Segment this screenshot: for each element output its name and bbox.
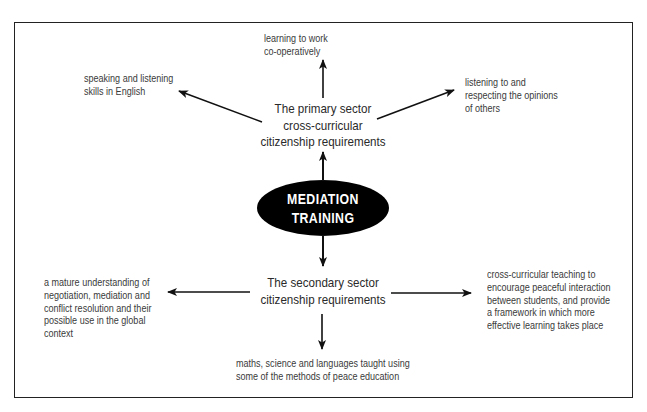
text-line: cross-curricular teaching to xyxy=(487,268,611,281)
text-line: conflict resolution and their xyxy=(44,302,151,315)
text-line: of others xyxy=(465,102,558,115)
text-line: co-operatively xyxy=(264,45,328,58)
primary-hub-line1: The primary sector xyxy=(237,101,409,118)
outcome-cooperative-work: learning to work co-operatively xyxy=(264,32,328,58)
outcome-speaking-listening: speaking and listening skills in English xyxy=(84,72,173,98)
text-line: effective learning takes place xyxy=(487,319,611,332)
text-line: possible use in the global xyxy=(44,314,151,327)
outcome-peaceful-interaction: cross-curricular teaching to encourage p… xyxy=(487,268,611,332)
text-line: learning to work xyxy=(264,32,328,45)
outcome-conflict-resolution: a mature understanding of negotiation, m… xyxy=(44,276,151,340)
text-line: speaking and listening xyxy=(84,72,173,85)
text-line: negotiation, mediation and xyxy=(44,289,151,302)
outcome-peace-education-methods: maths, science and languages taught usin… xyxy=(236,357,410,383)
primary-hub-line3: citizenship requirements xyxy=(237,134,409,151)
text-line: encourage peaceful interaction xyxy=(487,281,611,294)
center-label: MEDIATION TRAINING xyxy=(269,189,377,227)
text-line: a framework in which more xyxy=(487,306,611,319)
primary-sector-hub: The primary sector cross-curricular citi… xyxy=(237,101,409,151)
text-line: respecting the opinions xyxy=(465,89,558,102)
text-line: maths, science and languages taught usin… xyxy=(236,357,410,370)
primary-hub-line2: cross-curricular xyxy=(237,118,409,135)
secondary-hub-line2: citizenship requirements xyxy=(237,292,409,309)
secondary-sector-hub: The secondary sector citizenship require… xyxy=(237,275,409,308)
text-line: context xyxy=(44,327,151,340)
text-line: skills in English xyxy=(84,85,173,98)
text-line: between students, and provide xyxy=(487,294,611,307)
text-line: a mature understanding of xyxy=(44,276,151,289)
outcome-respecting-opinions: listening to and respecting the opinions… xyxy=(465,76,558,114)
center-label-line1: MEDIATION xyxy=(269,189,377,208)
text-line: listening to and xyxy=(465,76,558,89)
center-label-line2: TRAINING xyxy=(269,208,377,227)
secondary-hub-line1: The secondary sector xyxy=(237,275,409,292)
text-line: some of the methods of peace education xyxy=(236,370,410,383)
